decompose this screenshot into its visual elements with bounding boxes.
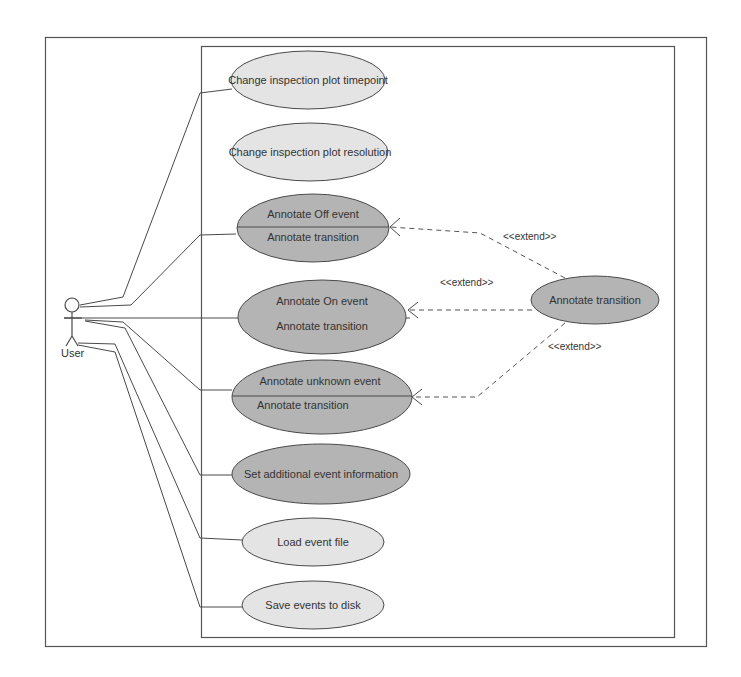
actor-left-leg: [66, 336, 72, 346]
use-case-change-resolution[interactable]: Change inspection plot resolution: [229, 123, 392, 181]
actor-head: [65, 298, 79, 312]
use-case-annotate-off-event[interactable]: Annotate Off event Annotate transition: [237, 194, 389, 262]
use-case-load-event-file[interactable]: Load event file: [242, 518, 384, 566]
use-case-label: Annotate transition: [549, 294, 641, 306]
extension-point-label: Annotate transition: [276, 320, 368, 332]
use-case-label: Load event file: [277, 536, 349, 548]
use-case-label: Change inspection plot resolution: [229, 146, 392, 158]
use-case-annotate-unknown-event[interactable]: Annotate unknown event Annotate transiti…: [232, 360, 412, 434]
assoc-uc7: [78, 343, 242, 540]
use-case-diagram: User Change inspection plot timepoint Ch…: [0, 0, 741, 677]
extend-label-off: <<extend>>: [503, 231, 557, 242]
use-case-label: Set additional event information: [244, 468, 398, 480]
actor-label: User: [61, 347, 85, 359]
assoc-uc8: [78, 345, 242, 607]
use-case-label: Annotate On event: [276, 295, 368, 307]
use-case-set-additional-info[interactable]: Set additional event information: [232, 444, 410, 504]
assoc-uc5: [85, 320, 232, 390]
use-case-save-events[interactable]: Save events to disk: [242, 581, 384, 629]
use-case-annotate-on-event[interactable]: Annotate On event Annotate transition: [238, 280, 406, 354]
extend-label-on: <<extend>>: [440, 277, 494, 288]
use-case-annotate-transition[interactable]: Annotate transition: [531, 276, 659, 324]
use-case-label: Annotate unknown event: [259, 375, 380, 387]
extend-to-unknown-event: [412, 323, 565, 397]
extension-point-label: Annotate transition: [257, 399, 349, 411]
actor-user[interactable]: [64, 298, 82, 346]
actor-right-leg: [72, 336, 78, 346]
use-case-label: Save events to disk: [265, 599, 361, 611]
use-case-change-timepoint[interactable]: Change inspection plot timepoint: [228, 51, 388, 109]
assoc-uc2: [80, 234, 236, 307]
extension-point-label: Annotate transition: [267, 231, 359, 243]
use-case-label: Annotate Off event: [267, 208, 359, 220]
extend-label-unknown: <<extend>>: [548, 341, 602, 352]
assoc-uc1: [80, 89, 232, 305]
use-case-label: Change inspection plot timepoint: [228, 74, 388, 86]
